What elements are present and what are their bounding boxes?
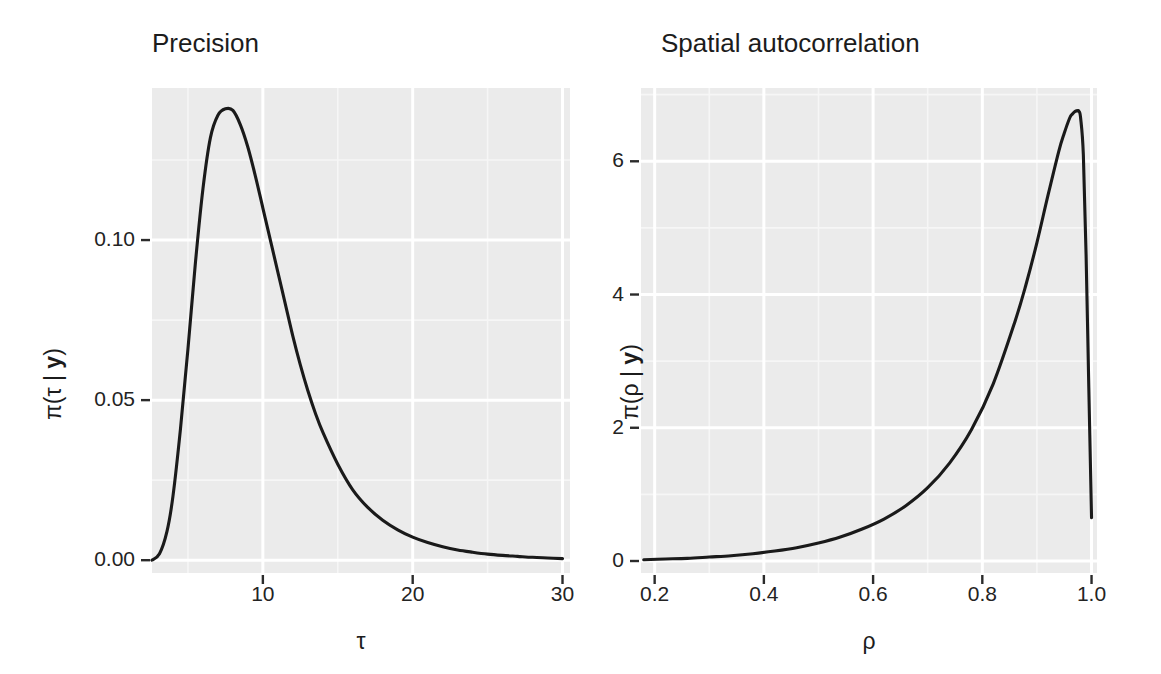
xtick-label: 1.0 <box>1052 582 1132 606</box>
plot-area-spatial-autocorrelation <box>581 0 1161 674</box>
ytick-label: 4 <box>510 282 624 306</box>
x-axis-title: τ <box>321 628 401 655</box>
y-axis-title-prefix: π(ρ | <box>617 365 643 420</box>
panel-spatial-autocorrelation: Spatial autocorrelation 0.20.40.60.81.00… <box>581 0 1161 674</box>
y-axis-title-prefix: π(τ | <box>40 369 66 420</box>
xtick-label: 0.6 <box>833 582 913 606</box>
plot-area-precision <box>0 0 581 674</box>
xtick-label: 10 <box>223 582 303 606</box>
y-axis-title-suffix: ) <box>40 348 66 356</box>
ytick-label: 0.00 <box>21 547 135 571</box>
y-axis-title-response-symbol: y <box>40 356 66 369</box>
xtick-label: 20 <box>373 582 453 606</box>
x-axis-title: ρ <box>829 628 909 655</box>
y-axis-title: π(ρ | y) <box>617 344 644 420</box>
xtick-label: 0.2 <box>615 582 695 606</box>
figure-canvas: Precision 1020300.000.050.10τπ(τ | y) Sp… <box>0 0 1161 674</box>
y-axis-title: π(τ | y) <box>40 348 67 420</box>
ytick-label: 0 <box>510 548 624 572</box>
xtick-label: 0.4 <box>724 582 804 606</box>
y-axis-title-suffix: ) <box>617 344 643 352</box>
panel-precision: Precision 1020300.000.050.10τπ(τ | y) <box>0 0 581 674</box>
ytick-label: 6 <box>510 148 624 172</box>
y-axis-title-response-symbol: y <box>617 352 643 365</box>
ytick-label: 0.05 <box>21 387 135 411</box>
ytick-label: 0.10 <box>21 227 135 251</box>
ytick-label: 2 <box>510 415 624 439</box>
xtick-label: 0.8 <box>942 582 1022 606</box>
